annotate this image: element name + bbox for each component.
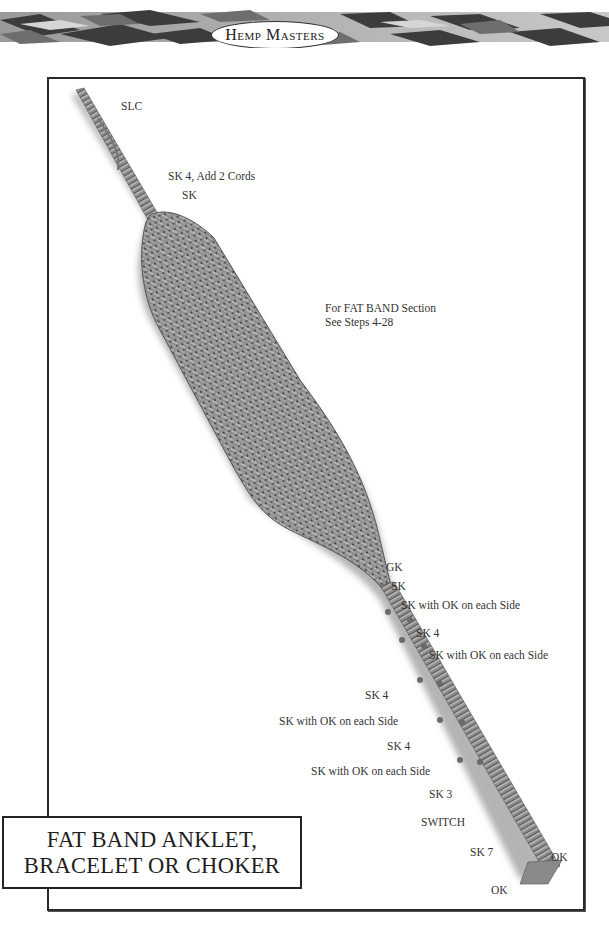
- title-line-1: FAT BAND ANKLET,: [47, 827, 257, 853]
- label-sk7: SK 7: [470, 846, 493, 860]
- title-line-2: BRACELET OR CHOKER: [24, 853, 280, 879]
- label-fat-band-line1: For FAT BAND Section: [325, 302, 436, 316]
- label-sk4-2: SK 4: [365, 689, 388, 703]
- label-ok-bottom: OK: [491, 884, 508, 898]
- label-sk-1: SK: [391, 580, 406, 594]
- label-sk3: SK 3: [429, 788, 452, 802]
- label-switch: SWITCH: [421, 816, 465, 830]
- project-title-box: FAT BAND ANKLET, BRACELET OR CHOKER: [2, 816, 302, 889]
- label-sk4-add-cords: SK 4, Add 2 Cords: [168, 170, 255, 184]
- label-sk-top: SK: [182, 189, 197, 203]
- braided-header-banner: Hemp Masters: [0, 4, 609, 48]
- label-sk-ok-4: SK with OK on each Side: [311, 765, 430, 779]
- label-sk-ok-1: SK with OK on each Side: [401, 599, 520, 613]
- label-sk4-1: SK 4: [416, 627, 439, 641]
- label-ok-right: OK: [551, 851, 568, 865]
- illustration-frame: [47, 77, 585, 911]
- label-sk-ok-2: SK with OK on each Side: [429, 649, 548, 663]
- brand-name: Hemp Masters: [225, 26, 324, 44]
- label-gk: GK: [386, 561, 403, 575]
- label-sk-ok-3: SK with OK on each Side: [279, 715, 398, 729]
- brand-badge: Hemp Masters: [211, 21, 339, 48]
- label-slc: SLC: [121, 100, 142, 114]
- label-sk4-3: SK 4: [387, 740, 410, 754]
- label-fat-band-line2: See Steps 4-28: [325, 316, 393, 330]
